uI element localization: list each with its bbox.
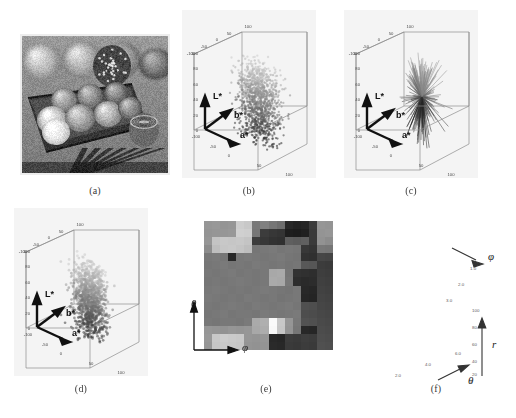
svg-text:100: 100 [245, 24, 253, 29]
panel-f-phi-label: φ [488, 250, 494, 262]
svg-text:100: 100 [448, 172, 456, 177]
panel-f-r-label: r [492, 338, 497, 350]
svg-text:-100: -100 [24, 332, 33, 337]
axis-label-b-b: b* [234, 110, 243, 120]
svg-text:40: 40 [25, 295, 30, 300]
figure-root: (a) 100 50 0 -50 -100 100 [0, 0, 516, 418]
svg-text:20: 20 [355, 113, 360, 118]
caption-e: (e) [186, 383, 346, 394]
svg-text:40: 40 [472, 359, 477, 364]
svg-text:3.0: 3.0 [446, 298, 453, 303]
lab-cube-b: 100 50 0 -50 -100 100 80 60 40 20 0 -100… [182, 10, 316, 178]
axis-label-b-c: b* [396, 110, 405, 120]
svg-text:100: 100 [407, 24, 415, 29]
svg-text:100: 100 [77, 222, 85, 227]
svg-text:100: 100 [23, 249, 31, 254]
svg-text:50: 50 [257, 163, 262, 168]
svg-text:0: 0 [378, 37, 381, 42]
lab-cube-d: 100 50 0 -50 -100 100 80 60 40 20 0 -100… [14, 208, 148, 376]
svg-text:-50: -50 [372, 144, 379, 149]
panel-e-phi-label: φ [242, 341, 248, 353]
svg-text:0: 0 [358, 128, 361, 133]
svg-text:-100: -100 [354, 134, 363, 139]
yarn-photo [20, 34, 170, 175]
svg-text:6.0: 6.0 [455, 351, 462, 356]
svg-text:20: 20 [193, 113, 198, 118]
panel-c-lab-scatter: 100 50 0 -50 -100 100 80 60 40 20 0 -100… [344, 10, 478, 178]
caption-f: (f) [356, 383, 516, 394]
svg-text:-50: -50 [363, 44, 370, 49]
svg-text:4.0: 4.0 [425, 362, 432, 367]
svg-text:100: 100 [353, 51, 361, 56]
svg-text:100: 100 [286, 172, 294, 177]
axis-label-b-d: b* [66, 308, 75, 318]
svg-text:0: 0 [228, 153, 231, 158]
svg-text:0: 0 [196, 128, 199, 133]
panel-b-lab-scatter: 100 50 0 -50 -100 100 80 60 40 20 0 -100… [182, 10, 316, 178]
panel-d-lab-scatter: 100 50 0 -50 -100 100 80 60 40 20 0 -100… [14, 208, 148, 376]
svg-text:0: 0 [216, 37, 219, 42]
panel-e-theta-label: θ [191, 297, 196, 309]
svg-text:60: 60 [472, 342, 477, 347]
svg-text:0: 0 [48, 235, 51, 240]
svg-text:40: 40 [355, 97, 360, 102]
axis-label-a-b: a* [240, 130, 249, 140]
svg-text:60: 60 [355, 82, 360, 87]
svg-text:60: 60 [193, 82, 198, 87]
caption-d: (d) [14, 383, 148, 394]
svg-text:50: 50 [227, 31, 232, 36]
svg-text:20: 20 [25, 311, 30, 316]
svg-text:50: 50 [419, 163, 424, 168]
svg-text:60: 60 [25, 280, 30, 285]
svg-text:80: 80 [193, 66, 198, 71]
svg-text:80: 80 [25, 264, 30, 269]
svg-text:100: 100 [118, 370, 126, 375]
svg-text:-50: -50 [33, 242, 40, 247]
svg-text:-50: -50 [42, 342, 49, 347]
svg-text:0: 0 [60, 351, 63, 356]
svg-text:2.0: 2.0 [395, 373, 402, 378]
svg-text:40: 40 [193, 97, 198, 102]
lab-cube-c: 100 50 0 -50 -100 100 80 60 40 20 0 -100… [344, 10, 478, 178]
caption-b: (b) [182, 185, 316, 196]
axis-label-a-d: a* [72, 328, 81, 338]
svg-text:-50: -50 [210, 144, 217, 149]
panel-f-surface-plot: 1.0 2.0 3.0 100 80 60 40 20 0 2.0 4.0 6.… [352, 208, 516, 388]
svg-text:50: 50 [389, 31, 394, 36]
svg-text:0: 0 [28, 326, 31, 331]
svg-text:0: 0 [390, 153, 393, 158]
axis-label-l-b: L* [213, 91, 222, 101]
panel-f-axes: 1.0 2.0 3.0 100 80 60 40 20 0 2.0 4.0 6.… [352, 208, 516, 388]
panel-a-photograph [20, 34, 170, 175]
svg-text:50: 50 [59, 229, 64, 234]
svg-text:-50: -50 [201, 44, 208, 49]
svg-text:80: 80 [472, 325, 477, 330]
caption-c: (c) [344, 185, 478, 196]
axis-label-l-c: L* [375, 91, 384, 101]
axis-label-l-d: L* [45, 289, 54, 299]
svg-text:2.0: 2.0 [458, 282, 465, 287]
panel-e-axes [186, 286, 316, 360]
caption-a: (a) [0, 185, 190, 196]
svg-text:100: 100 [472, 308, 480, 313]
axis-label-a-c: a* [402, 130, 411, 140]
svg-text:50: 50 [89, 361, 94, 366]
svg-text:80: 80 [355, 66, 360, 71]
svg-text:100: 100 [191, 51, 199, 56]
svg-text:-100: -100 [192, 134, 201, 139]
